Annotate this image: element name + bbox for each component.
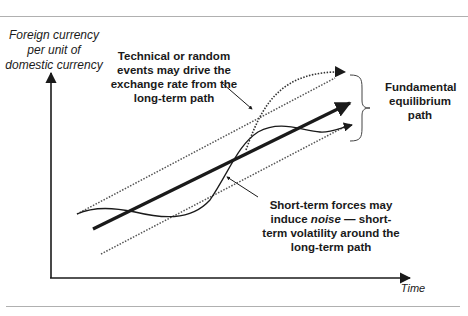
technical-events-annotation: Technical or random events may drive the… <box>104 49 244 105</box>
brace-icon <box>350 75 370 141</box>
noise-italic-word: noise <box>311 213 341 225</box>
y-axis-label: Foreign currency per unit of domestic cu… <box>4 28 104 73</box>
noise-annotation: Short-term forces may induce noise — sho… <box>262 198 400 254</box>
fundamental-path-annotation: Fundamental equilibrium path <box>385 80 455 122</box>
x-axis-label: Time <box>388 281 438 296</box>
